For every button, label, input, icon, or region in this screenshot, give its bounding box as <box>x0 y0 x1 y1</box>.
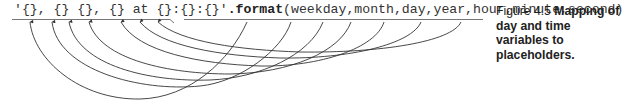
arrow-month <box>52 22 291 87</box>
arrow-second <box>158 22 461 52</box>
arrow-hour <box>121 22 384 66</box>
arrow-weekday <box>30 22 247 99</box>
figure-caption: Figure 4.5 Mapping of day and time varia… <box>496 4 621 62</box>
figure-label: Figure 4.5 <box>496 4 551 18</box>
arrow-minute <box>140 22 421 58</box>
arrow-year <box>89 22 351 74</box>
